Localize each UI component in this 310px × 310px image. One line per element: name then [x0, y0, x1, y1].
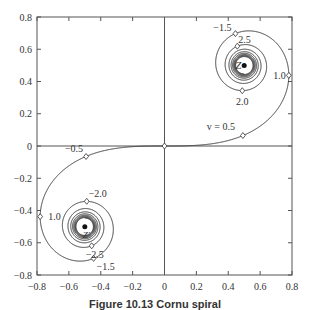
- x-tick-label: 0.4: [222, 281, 235, 292]
- x-tick-label: −0.2: [124, 281, 142, 292]
- v-marker: [162, 143, 167, 149]
- limit-point-dot: [82, 224, 87, 229]
- marker-label: 2.5: [238, 34, 251, 45]
- marker-label: −1.5: [97, 261, 115, 272]
- v-marker: [233, 31, 238, 37]
- marker-label: 2.0: [236, 96, 249, 107]
- v-marker: [286, 72, 291, 78]
- x-tick-label: 0: [162, 281, 167, 292]
- y-tick-label: 0.6: [20, 44, 33, 55]
- marker-label: 1.0: [48, 211, 61, 222]
- y-tick-label: −0.8: [14, 270, 32, 281]
- marker-label: −2.5: [86, 249, 104, 260]
- marker-label: 1.0: [273, 70, 286, 81]
- v-marker: [241, 133, 246, 139]
- marker-label: −2.0: [89, 188, 107, 199]
- x-tick-label: −0.8: [28, 281, 46, 292]
- v-marker: [240, 88, 245, 94]
- x-tick-label: 0.6: [254, 281, 267, 292]
- figure-caption: Figure 10.13 Cornu spiral: [0, 298, 310, 310]
- marker-label: v = 0.5: [207, 121, 235, 132]
- x-tick-label: −0.4: [92, 281, 110, 292]
- z-prime-label: Z': [83, 230, 91, 240]
- v-marker: [84, 153, 89, 159]
- x-tick-label: 0.2: [190, 281, 203, 292]
- y-tick-label: −0.6: [14, 237, 32, 248]
- y-tick-label: 0: [27, 141, 32, 152]
- marker-label: −0.5: [65, 143, 83, 154]
- v-marker: [38, 214, 43, 220]
- z-label: Z: [235, 59, 242, 71]
- marker-label: −1.5: [213, 22, 231, 33]
- y-tick-label: 0.2: [20, 108, 33, 119]
- y-tick-label: 0.4: [20, 76, 33, 87]
- y-tick-label: 0.8: [20, 12, 33, 23]
- x-tick-label: −0.6: [60, 281, 78, 292]
- y-tick-label: −0.2: [14, 173, 32, 184]
- limit-point-dot: [242, 63, 247, 68]
- y-tick-label: −0.4: [14, 205, 32, 216]
- x-tick-label: 0.8: [286, 281, 299, 292]
